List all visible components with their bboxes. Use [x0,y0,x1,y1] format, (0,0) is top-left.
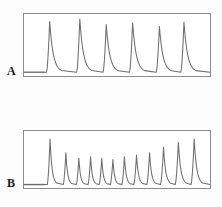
panel-a [23,13,211,77]
panel-a-label: A [7,65,16,77]
panel-b [23,130,211,189]
figure-container: A B [0,0,222,207]
panel-b-trace [24,139,210,185]
panel-a-plot [24,14,210,76]
panel-b-plot [24,131,210,188]
panel-a-trace [24,19,210,72]
panel-b-label: B [7,177,15,189]
